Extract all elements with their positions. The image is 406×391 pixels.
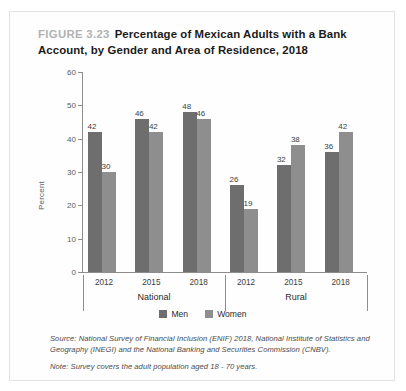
y-axis-tick-label: 60: [50, 68, 76, 77]
bar-value-label: 46: [191, 109, 211, 118]
figure-number: FIGURE 3.23: [38, 28, 110, 40]
bar-value-label: 42: [82, 122, 102, 131]
legend-label-men: Men: [171, 309, 188, 319]
bar-men: [277, 165, 291, 272]
bar-women: [291, 145, 305, 272]
bar-value-label: 42: [143, 122, 163, 131]
bar-women: [149, 132, 163, 272]
x-axis-year-label: 2018: [178, 278, 220, 287]
bar-pair: 4846: [180, 72, 222, 272]
bar-value-label: 19: [238, 199, 258, 208]
source-note: Source: National Survey of Financial Inc…: [50, 334, 370, 355]
x-axis-group-label: Rural: [225, 292, 367, 302]
x-axis-group-separator: [367, 275, 368, 311]
legend-swatch-women: [205, 310, 213, 318]
bar-pair: 4230: [85, 72, 127, 272]
bar-men: [135, 119, 149, 272]
bar-pair: 2619: [227, 72, 269, 272]
bar-value-label: 38: [285, 135, 305, 144]
bar-value-label: 36: [319, 142, 339, 151]
bar-value-label: 26: [224, 175, 244, 184]
chart-plot-area: Percent 0102030405060 423046424846261932…: [40, 72, 380, 317]
y-axis-tick-label: 30: [50, 168, 76, 177]
bar-pair: 3238: [274, 72, 316, 272]
bar-pair: 4642: [132, 72, 174, 272]
bar-women: [244, 209, 258, 272]
bar-women: [197, 119, 211, 272]
bar-women: [102, 172, 116, 272]
survey-note: Note: Survey covers the adult population…: [50, 362, 370, 373]
y-axis-tick-label: 10: [50, 234, 76, 243]
x-axis-group-label: National: [83, 292, 225, 302]
x-axis-year-label: 2015: [272, 278, 314, 287]
x-axis-year-label: 2018: [320, 278, 362, 287]
x-axis-year-label: 2012: [225, 278, 267, 287]
y-axis-tick-label: 20: [50, 201, 76, 210]
bar-men: [88, 132, 102, 272]
y-axis-title: Percent: [37, 181, 46, 210]
bar-value-label: 46: [129, 109, 149, 118]
x-axis-year-label: 2012: [83, 278, 125, 287]
bar-women: [339, 132, 353, 272]
bar-value-label: 42: [333, 122, 353, 131]
bar-pair: 3642: [322, 72, 364, 272]
legend-swatch-men: [159, 310, 167, 318]
x-axis-line: [82, 272, 367, 273]
bar-men: [325, 152, 339, 272]
bar-value-label: 32: [271, 155, 291, 164]
figure-title: FIGURE 3.23Percentage of Mexican Adults …: [38, 27, 368, 58]
figure-container: FIGURE 3.23Percentage of Mexican Adults …: [9, 11, 395, 381]
legend-item-women: Women: [205, 309, 246, 319]
y-axis-tick-label: 0: [50, 268, 76, 277]
bar-value-label: 30: [96, 162, 116, 171]
y-axis-tick-label: 40: [50, 134, 76, 143]
y-axis-tick-label: 50: [50, 101, 76, 110]
figure-notes: Source: National Survey of Financial Inc…: [50, 334, 370, 373]
x-axis-year-label: 2015: [130, 278, 172, 287]
legend-label-women: Women: [217, 309, 246, 319]
legend-item-men: Men: [159, 309, 188, 319]
bar-men: [183, 112, 197, 272]
bar-series-group: 423046424846261932383642: [83, 72, 367, 272]
chart-legend: Men Women: [10, 309, 396, 319]
